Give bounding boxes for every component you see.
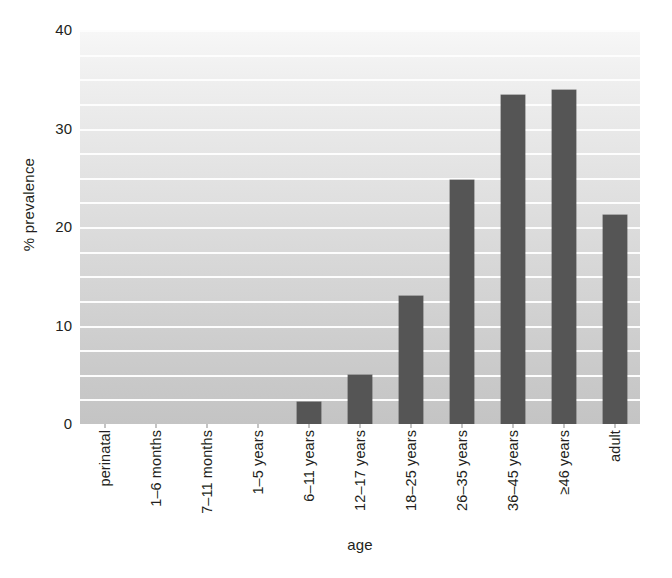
bar bbox=[348, 375, 372, 424]
y-axis-tick-label: 40 bbox=[28, 22, 72, 38]
x-tick-slot: 7–11 months bbox=[182, 424, 233, 534]
x-axis-tick-label: 12–17 years bbox=[352, 430, 367, 511]
x-axis-tick-mark bbox=[614, 424, 615, 428]
x-axis-tick-mark bbox=[105, 424, 106, 428]
x-axis-tick-label: 6–11 years bbox=[302, 430, 317, 502]
x-axis-tick-mark bbox=[461, 424, 462, 428]
bar bbox=[603, 215, 627, 424]
x-tick-slot: 36–45 years bbox=[487, 424, 538, 534]
x-axis-tick-mark bbox=[563, 424, 564, 428]
bar-slot bbox=[131, 30, 182, 424]
y-axis-tick-label: 10 bbox=[28, 318, 72, 334]
x-axis-tick-mark bbox=[410, 424, 411, 428]
bar-slot bbox=[182, 30, 233, 424]
x-axis-tick-label: adult bbox=[607, 430, 622, 462]
y-axis-tick-label: 30 bbox=[28, 121, 72, 137]
x-axis-tick-mark bbox=[512, 424, 513, 428]
bar bbox=[501, 95, 525, 424]
bar-slot bbox=[385, 30, 436, 424]
x-tick-slot: 1–5 years bbox=[233, 424, 284, 534]
x-axis-tick-label: perinatal bbox=[98, 430, 113, 487]
x-axis-tick-labels: perinatal1–6 months7–11 months1–5 years6… bbox=[80, 424, 640, 534]
x-axis-tick-label: 26–35 years bbox=[454, 430, 469, 511]
y-axis-tick-label: 0 bbox=[28, 416, 72, 432]
bar-slot bbox=[233, 30, 284, 424]
bar-slot bbox=[80, 30, 131, 424]
bar bbox=[297, 402, 321, 424]
bar bbox=[399, 296, 423, 424]
bar-slot bbox=[284, 30, 335, 424]
bar-slot bbox=[589, 30, 640, 424]
x-tick-slot: 26–35 years bbox=[436, 424, 487, 534]
x-tick-slot: adult bbox=[589, 424, 640, 534]
x-tick-slot: 18–25 years bbox=[385, 424, 436, 534]
x-axis-tick-label: 36–45 years bbox=[505, 430, 520, 511]
x-axis-tick-mark bbox=[258, 424, 259, 428]
x-axis-tick-mark bbox=[309, 424, 310, 428]
y-axis-tick-labels: 010203040 bbox=[24, 0, 72, 578]
bar-slot bbox=[436, 30, 487, 424]
bar bbox=[552, 90, 576, 424]
y-axis-tick-label: 20 bbox=[28, 219, 72, 235]
x-axis-title: age bbox=[80, 536, 640, 553]
x-tick-slot: 6–11 years bbox=[284, 424, 335, 534]
plot-area bbox=[80, 30, 640, 424]
x-tick-slot: ≥46 years bbox=[538, 424, 589, 534]
x-axis-tick-mark bbox=[207, 424, 208, 428]
x-axis-tick-label: 1–5 years bbox=[251, 430, 266, 495]
x-axis-tick-mark bbox=[359, 424, 360, 428]
bar-slot bbox=[538, 30, 589, 424]
x-axis-tick-mark bbox=[156, 424, 157, 428]
x-axis-tick-label: 1–6 months bbox=[149, 430, 164, 507]
bar-series bbox=[80, 30, 640, 424]
x-axis-tick-label: ≥46 years bbox=[556, 430, 571, 494]
x-tick-slot: perinatal bbox=[80, 424, 131, 534]
x-axis-tick-label: 18–25 years bbox=[403, 430, 418, 511]
bar bbox=[450, 180, 474, 424]
x-axis-tick-label: 7–11 months bbox=[200, 430, 215, 514]
x-tick-slot: 1–6 months bbox=[131, 424, 182, 534]
bar-slot bbox=[335, 30, 386, 424]
x-tick-slot: 12–17 years bbox=[335, 424, 386, 534]
bar-chart-figure: % prevalence 010203040 perinatal1–6 mont… bbox=[0, 0, 672, 578]
bar-slot bbox=[487, 30, 538, 424]
